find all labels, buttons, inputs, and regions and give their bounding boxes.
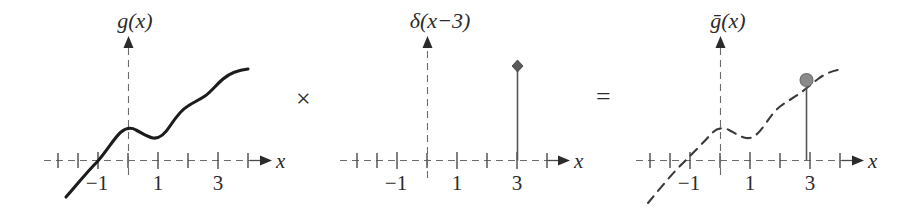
- plot-g-bar-of-x: −1 1 3 x ḡ(x): [600, 0, 915, 210]
- plot-delta-impulse: −1 1 3 x δ(x−3): [300, 0, 600, 210]
- plot-g-of-x: −1 1 3 x g(x): [0, 0, 300, 210]
- x-axis-label: x: [573, 149, 584, 173]
- x-tick-label-minus1: −1: [86, 171, 108, 195]
- x-tick-label-minus1: −1: [385, 171, 407, 195]
- panel-g-bar-of-x: −1 1 3 x ḡ(x): [600, 0, 915, 210]
- y-axis-arrow-head: [423, 36, 433, 48]
- x-axis-arrow-head: [260, 156, 272, 166]
- x-axis-label: x: [275, 149, 286, 173]
- sample-value-dot: [800, 74, 813, 87]
- y-axis-arrow-head: [716, 36, 726, 48]
- x-axis-arrow-head: [558, 156, 570, 166]
- impulse-diamond-marker: [512, 60, 523, 72]
- panel-title-g: g(x): [117, 8, 152, 33]
- x-axis-label: x: [867, 149, 878, 173]
- panel-title-delta: δ(x−3): [410, 8, 471, 33]
- x-tick-label-1: 1: [153, 171, 164, 195]
- x-tick-label-1: 1: [745, 171, 756, 195]
- x-tick-label-3: 3: [213, 171, 224, 195]
- signal-multiplication-figure: −1 1 3 x g(x) ×: [0, 0, 915, 210]
- x-tick-label-1: 1: [452, 171, 463, 195]
- y-axis-arrow-head: [124, 36, 134, 48]
- x-tick-label-minus1: −1: [678, 171, 700, 195]
- panel-g-of-x: −1 1 3 x g(x): [0, 0, 300, 210]
- x-tick-label-3: 3: [805, 171, 816, 195]
- x-tick-label-3: 3: [512, 171, 523, 195]
- x-axis-arrow-head: [852, 156, 864, 166]
- panel-delta-impulse: −1 1 3 x δ(x−3): [300, 0, 600, 210]
- panel-title-g-bar: ḡ(x): [710, 8, 745, 33]
